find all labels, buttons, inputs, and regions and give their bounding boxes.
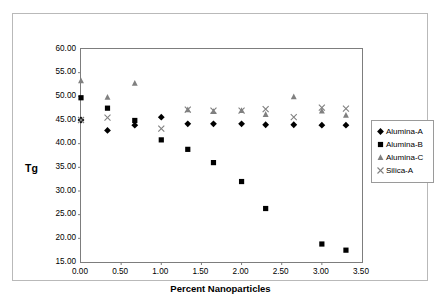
data-point (105, 94, 111, 100)
y-axis-tick-label: 60.00 (56, 44, 77, 53)
y-axis-title: Tg (25, 162, 38, 174)
data-point (78, 95, 83, 100)
data-point (343, 248, 348, 253)
data-point (291, 94, 297, 100)
cross-marker-icon (375, 162, 386, 180)
data-point (211, 160, 216, 165)
y-axis-tick-label: 55.00 (56, 67, 77, 76)
data-point (263, 206, 268, 211)
chart-frame: 15.0020.0025.0030.0035.0040.0045.0050.00… (12, 13, 428, 281)
data-point (343, 122, 350, 129)
data-point (158, 114, 165, 121)
x-axis-tick-label: 1.00 (140, 267, 180, 276)
y-axis-tick-label: 45.00 (56, 115, 77, 124)
data-point (105, 106, 110, 111)
data-point (210, 120, 217, 127)
data-point (343, 112, 349, 118)
data-markers-layer (81, 49, 362, 262)
data-point (159, 137, 164, 142)
data-point (239, 179, 244, 184)
x-axis-tick-label: 1.50 (180, 267, 220, 276)
data-point (290, 121, 297, 128)
x-axis-tick-label: 3.50 (341, 267, 381, 276)
data-point (185, 147, 190, 152)
data-point (343, 106, 349, 112)
y-axis-tick-label: 50.00 (56, 91, 77, 100)
data-point (238, 120, 245, 127)
data-point (78, 78, 84, 84)
x-axis-tick-label: 0.50 (100, 267, 140, 276)
y-axis-tick-label: 15.00 (56, 257, 77, 266)
y-axis-tick-label: 20.00 (56, 233, 77, 242)
x-axis-title: Percent Nanoparticles (80, 283, 361, 294)
data-point (291, 114, 297, 120)
y-axis-tick-label: 25.00 (56, 209, 77, 218)
x-axis-tick-label: 2.00 (221, 267, 261, 276)
y-axis-tick-label: 40.00 (56, 138, 77, 147)
legend-item-label: Alumina-A (386, 127, 423, 137)
data-point (262, 121, 269, 128)
data-point (319, 108, 325, 114)
data-point (132, 80, 138, 86)
series-alumina-c (78, 78, 349, 118)
data-point (318, 122, 325, 129)
data-point (104, 115, 110, 121)
data-point (263, 111, 269, 117)
plot-area (80, 48, 363, 263)
y-axis-tick-label: 35.00 (56, 162, 77, 171)
data-point (319, 241, 324, 246)
data-point (132, 118, 137, 123)
legend-item-label: Alumina-B (386, 140, 423, 150)
legend-item-label: Alumina-C (386, 153, 423, 163)
data-point (104, 127, 111, 134)
y-axis-tick-labels: 15.0020.0025.0030.0035.0040.0045.0050.00… (35, 48, 76, 261)
x-axis-tick-labels: 0.000.501.001.502.002.503.003.50 (80, 267, 361, 279)
data-point (184, 120, 191, 127)
y-axis-tick-label: 30.00 (56, 186, 77, 195)
x-axis-tick-label: 0.00 (60, 267, 100, 276)
series-alumina-a (78, 114, 350, 134)
series-alumina-b (78, 95, 348, 253)
x-axis-tick-label: 2.50 (261, 267, 301, 276)
legend-item-label: Silica-A (386, 166, 413, 176)
x-axis-tick-label: 3.00 (301, 267, 341, 276)
legend-item[interactable]: Silica-A (375, 164, 433, 177)
data-point (158, 126, 164, 132)
chart-legend: Alumina-AAlumina-BAlumina-CSilica-A (371, 120, 434, 183)
